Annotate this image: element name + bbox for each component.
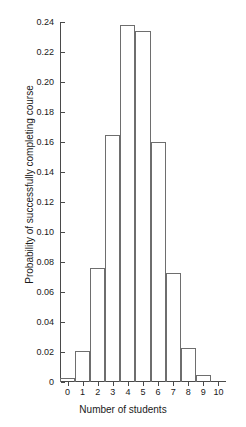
y-tick-mark <box>61 82 65 83</box>
plot-area: 00.020.040.060.080.100.120.140.160.180.2… <box>60 22 226 382</box>
y-tick-label: 0.20 <box>36 78 54 87</box>
y-axis-title-container: Probability of successfully completing c… <box>0 0 18 427</box>
x-tick-label: 6 <box>156 388 161 397</box>
y-tick-label: 0.04 <box>36 318 54 327</box>
bar <box>120 25 135 382</box>
x-tick-mark <box>143 382 144 386</box>
x-tick-label: 2 <box>95 388 100 397</box>
y-tick-label: 0.22 <box>36 48 54 57</box>
bar <box>105 135 120 383</box>
y-tick-label: 0.18 <box>36 108 54 117</box>
y-tick-mark <box>61 112 65 113</box>
y-tick-mark <box>61 262 65 263</box>
bar <box>166 273 181 383</box>
x-tick-mark <box>188 382 189 386</box>
x-axis-title: Number of students <box>0 404 246 415</box>
y-tick-label: 0.02 <box>36 348 54 357</box>
bar <box>90 268 105 382</box>
x-tick-label: 8 <box>186 388 191 397</box>
y-tick-label: 0.12 <box>36 198 54 207</box>
y-tick-label: 0.16 <box>36 138 54 147</box>
x-tick-label: 7 <box>171 388 176 397</box>
y-tick-mark <box>61 172 65 173</box>
bar <box>60 378 75 383</box>
y-tick-mark <box>61 52 65 53</box>
x-tick-label: 4 <box>125 388 130 397</box>
x-tick-mark <box>158 382 159 386</box>
bar <box>75 351 90 383</box>
bar <box>196 375 211 383</box>
chart-page: 00.020.040.060.080.100.120.140.160.180.2… <box>0 0 246 427</box>
y-tick-mark <box>61 142 65 143</box>
x-tick-mark <box>173 382 174 386</box>
bar <box>135 31 150 382</box>
y-tick-label: 0.14 <box>36 168 54 177</box>
bar <box>151 142 166 382</box>
y-tick-label: 0.10 <box>36 228 54 237</box>
y-tick-mark <box>61 202 65 203</box>
x-tick-label: 9 <box>201 388 206 397</box>
y-tick-label: 0.24 <box>36 18 54 27</box>
y-tick-mark <box>61 22 65 23</box>
y-tick-mark <box>61 232 65 233</box>
y-tick-label: 0.08 <box>36 258 54 267</box>
x-tick-mark <box>203 382 204 386</box>
x-tick-mark <box>98 382 99 386</box>
x-tick-label: 0 <box>65 388 70 397</box>
x-tick-label: 1 <box>80 388 85 397</box>
y-tick-mark <box>61 292 65 293</box>
x-tick-mark <box>128 382 129 386</box>
x-tick-mark <box>83 382 84 386</box>
y-axis-title: Probability of successfully completing c… <box>24 35 35 335</box>
y-tick-mark <box>61 322 65 323</box>
bar <box>181 348 196 383</box>
y-tick-label: 0 <box>49 378 54 387</box>
x-tick-mark <box>68 382 69 386</box>
x-tick-label: 3 <box>110 388 115 397</box>
y-tick-mark <box>61 352 65 353</box>
x-tick-mark <box>113 382 114 386</box>
x-tick-label: 5 <box>140 388 145 397</box>
y-tick-label: 0.06 <box>36 288 54 297</box>
x-tick-mark <box>218 382 219 386</box>
y-tick-mark <box>61 382 65 383</box>
x-tick-label: 10 <box>213 388 223 397</box>
